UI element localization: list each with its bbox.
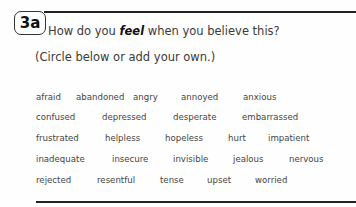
feelings-row-4: inadequate insecure invisible jealous ne… bbox=[36, 154, 324, 164]
feeling-word[interactable]: invisible bbox=[173, 154, 233, 164]
feeling-word[interactable]: hurt bbox=[228, 133, 268, 143]
feeling-word[interactable]: frustrated bbox=[36, 133, 105, 143]
feeling-word[interactable]: confused bbox=[36, 112, 102, 122]
feeling-word[interactable]: angry bbox=[133, 92, 181, 102]
feeling-word[interactable]: insecure bbox=[112, 154, 173, 164]
question-part2: when you believe this? bbox=[144, 24, 280, 38]
question-emphasis: feel bbox=[120, 24, 145, 38]
feeling-word[interactable]: inadequate bbox=[36, 154, 112, 164]
feeling-word[interactable]: helpless bbox=[105, 133, 165, 143]
feeling-word[interactable]: annoyed bbox=[181, 92, 243, 102]
feelings-row-2: confused depressed desperate embarrassed bbox=[36, 112, 298, 122]
feeling-word[interactable]: upset bbox=[207, 175, 255, 185]
feeling-word[interactable]: jealous bbox=[233, 154, 289, 164]
top-rule bbox=[44, 11, 356, 13]
feelings-row-1: afraid abandoned angry annoyed anxious bbox=[36, 92, 276, 102]
feeling-word[interactable]: resentful bbox=[97, 175, 160, 185]
question-text: How do you feel when you believe this? bbox=[48, 24, 280, 38]
bottom-rule bbox=[36, 201, 356, 203]
question-part1: How do you bbox=[48, 24, 120, 38]
feeling-word[interactable]: desperate bbox=[173, 112, 242, 122]
section-badge: 3a bbox=[14, 11, 46, 35]
feeling-word[interactable]: anxious bbox=[243, 92, 276, 102]
feeling-word[interactable]: embarrassed bbox=[242, 112, 298, 122]
feeling-word[interactable]: hopeless bbox=[165, 133, 228, 143]
feelings-row-3: frustrated helpless hopeless hurt impati… bbox=[36, 133, 309, 143]
feeling-word[interactable]: impatient bbox=[268, 133, 309, 143]
feeling-word[interactable]: tense bbox=[160, 175, 207, 185]
feeling-word[interactable]: depressed bbox=[102, 112, 173, 122]
feelings-row-5: rejected resentful tense upset worried bbox=[36, 175, 287, 185]
feeling-word[interactable]: afraid bbox=[36, 92, 76, 102]
feeling-word[interactable]: worried bbox=[255, 175, 287, 185]
instruction-text: (Circle below or add your own.) bbox=[35, 50, 215, 64]
feeling-word[interactable]: nervous bbox=[289, 154, 324, 164]
feeling-word[interactable]: abandoned bbox=[76, 92, 133, 102]
feeling-word[interactable]: rejected bbox=[36, 175, 97, 185]
